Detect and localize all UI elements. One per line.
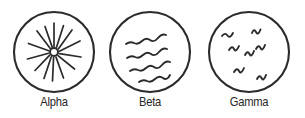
gamma-svg [205, 8, 293, 96]
alpha-center-ring [50, 48, 58, 56]
gamma-squiggle [257, 75, 266, 79]
panel-beta: Beta [104, 0, 204, 118]
beta-wavy-line [126, 34, 166, 44]
alpha-ray [58, 56, 75, 69]
beta-diagram [106, 8, 194, 96]
gamma-diagram [205, 8, 293, 96]
alpha-ray [28, 53, 49, 59]
panel-alpha: Alpha [8, 0, 108, 118]
alpha-diagram [10, 8, 98, 96]
gamma-squiggle [222, 33, 233, 37]
gamma-squiggle [252, 30, 261, 34]
beta-label: Beta [110, 94, 189, 109]
alpha-ray [53, 57, 54, 81]
gamma-squiggle [245, 51, 254, 55]
alpha-ray [59, 54, 81, 57]
beta-wavy-line [139, 75, 170, 82]
beta-wavy-line-group [126, 34, 170, 82]
gamma-label: Gamma [209, 94, 288, 109]
beta-wavy-line [130, 61, 170, 71]
gamma-squiggle-group [222, 30, 266, 80]
gamma-squiggle [256, 45, 265, 49]
alpha-label: Alpha [14, 94, 93, 109]
gamma-squiggle [234, 68, 244, 72]
panel-gamma: Gamma [203, 0, 303, 118]
gamma-squiggle [229, 46, 239, 50]
beta-wavy-line [127, 48, 167, 58]
alpha-svg [10, 8, 98, 96]
three-circle-diagram: Alpha Beta [0, 0, 305, 118]
beta-outer-circle [110, 12, 190, 92]
beta-svg [106, 8, 194, 96]
alpha-ray [29, 44, 49, 51]
